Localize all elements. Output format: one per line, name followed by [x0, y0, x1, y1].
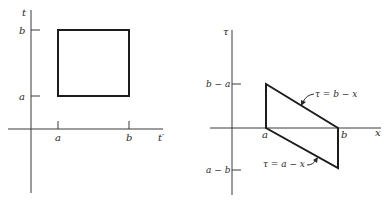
right-x-axis-label: x [375, 127, 381, 138]
right-y-tick-label-a-minus-b: a − b [206, 165, 231, 175]
upper-line-arrow [303, 94, 314, 102]
left-y-tick-label-a: a [19, 91, 25, 102]
left-panel: t t′ b a a b [8, 7, 165, 193]
right-x-tick-label-b: b [341, 129, 347, 140]
left-y-tick-label-b: b [19, 25, 25, 36]
right-x-tick-label-a: a [262, 129, 268, 140]
right-panel: τ x b − a a − b a b τ = b − x τ = a − x [206, 26, 381, 195]
right-y-tick-label-b-minus-a: b − a [206, 79, 230, 89]
figure: t t′ b a a b τ x b − a a − b a b τ = b −… [0, 0, 389, 202]
left-x-tick-label-b: b [126, 132, 132, 143]
lower-line-label: τ = a − x [263, 159, 305, 169]
left-x-axis-label: t′ [158, 132, 165, 143]
upper-line-label: τ = b − x [315, 89, 357, 99]
right-y-axis-label: τ [223, 26, 229, 37]
left-x-tick-label-a: a [55, 132, 61, 143]
square-region [58, 30, 129, 96]
left-y-axis-label: t [22, 7, 27, 18]
